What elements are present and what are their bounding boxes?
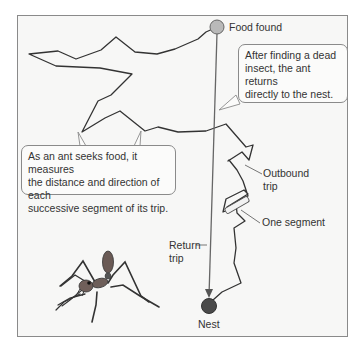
food-found-marker [210,20,224,34]
return-callout-line-3: directly to the nest. [245,88,341,101]
seek-callout-line-2: the distance and direction of each [28,176,169,202]
seek-explanation-callout: As an ant seeks food, it measures the di… [21,145,176,195]
return-label-line-2: trip [169,252,201,265]
outbound-label-line-2: trip [263,180,309,193]
return-label-line-1: Return [169,239,201,252]
seek-callout-tail [78,132,86,146]
return-explanation-callout: After finding a dead insect, the ant ret… [238,44,348,103]
return-trip-label: Return trip [169,239,201,264]
return-trip-line [209,33,217,296]
outbound-label-line-1: Outbound [263,167,309,180]
food-found-label: Food found [229,21,282,34]
seek-callout-line-3: successive segment of its trip. [28,202,169,215]
nest-marker [202,299,217,314]
seek-callout-line-1: As an ant seeks food, it measures [28,150,169,176]
return-callout-tail [219,95,240,110]
return-callout-line-1: After finding a dead [245,49,341,62]
outbound-trip-label: Outbound trip [263,167,309,192]
ant-body [77,251,114,296]
return-callout-line-2: insect, the ant returns [245,62,341,88]
outbound-leader-line [245,165,262,174]
nest-label: Nest [198,318,220,331]
one-segment-label: One segment [262,216,325,229]
return-arrowhead-icon [205,289,213,298]
seek-callout-tail-2 [134,131,141,146]
